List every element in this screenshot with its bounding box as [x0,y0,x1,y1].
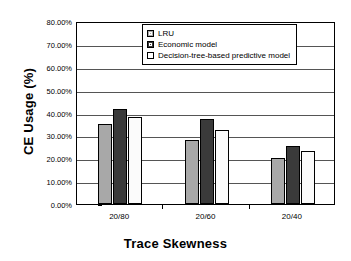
y-axis-tick-label: 20.00% [26,155,72,164]
bar [98,124,112,204]
bar [200,119,214,204]
legend-swatch-icon [147,52,154,59]
chart-legend: LRUEconomic modelDecision-tree-based pre… [142,24,297,65]
legend-label: Economic model [158,40,217,50]
y-axis-tick-mark [98,205,102,206]
x-axis-title: Trace Skewness [0,236,351,251]
bar [215,130,229,204]
y-axis-tick-label: 60.00% [26,63,72,72]
legend-item: Economic model [147,39,290,50]
x-axis-tick-mark [249,205,250,209]
bar [128,117,142,204]
y-axis-tick-label: 80.00% [26,18,72,27]
x-axis-tick-label: 20/60 [171,212,241,221]
bar [286,146,300,204]
legend-swatch-icon [147,41,154,48]
y-axis-tick-label: 30.00% [26,132,72,141]
y-axis-tick-labels: 0.00%10.00%20.00%30.00%40.00%50.00%60.00… [26,22,72,205]
y-axis-tick-label: 50.00% [26,86,72,95]
bar-chart: CE Usage (%) 0.00%10.00%20.00%30.00%40.0… [0,0,351,261]
x-axis-tick-label: 20/40 [257,212,327,221]
x-axis-tick-mark [162,205,163,209]
bar-group [98,23,142,204]
x-axis-tick-label: 20/80 [84,212,154,221]
legend-item: LRU [147,28,290,39]
y-axis-tick-label: 10.00% [26,178,72,187]
bar [113,109,127,204]
bar [271,158,285,204]
y-axis-tick-label: 70.00% [26,40,72,49]
legend-swatch-icon [147,30,154,37]
y-axis-tick-label: 0.00% [26,201,72,210]
bar [301,151,315,204]
legend-item: Decision-tree-based predictive model [147,50,290,61]
legend-label: LRU [158,29,174,39]
legend-label: Decision-tree-based predictive model [158,51,290,61]
bar [185,140,199,204]
y-axis-tick-label: 40.00% [26,109,72,118]
